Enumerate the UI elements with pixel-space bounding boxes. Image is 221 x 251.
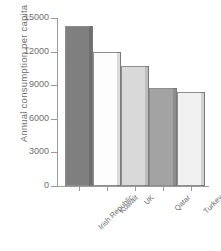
bar-irish-republic[interactable] [65,26,93,186]
bar-turkey[interactable] [177,92,205,186]
x-axis-tick-mark [107,186,108,191]
y-axis-tick-mark [51,52,57,53]
x-axis-label: Kuwait [118,193,140,215]
y-axis-tick-mark [51,85,57,86]
y-axis-tick-mark [51,186,57,187]
x-axis-tick-mark [191,186,192,191]
bar-kuwait[interactable] [93,52,121,186]
y-axis-tick-mark [51,119,57,120]
x-axis-label: UK [142,193,156,207]
bar-uk[interactable] [121,66,149,186]
x-axis-tick-mark [135,186,136,191]
y-axis-tick-mark [51,152,57,153]
bar-qatar[interactable] [149,88,177,186]
bar-shadow-edge [201,92,205,186]
x-axis-tick-mark [79,186,80,191]
x-axis-tick-mark [163,186,164,191]
bar-chart: Annual consumption per capita 1500012000… [0,0,221,251]
x-axis-label: Turkey [202,193,221,215]
y-axis-tick-mark [51,18,57,19]
x-axis-label: Qatar [172,193,192,213]
